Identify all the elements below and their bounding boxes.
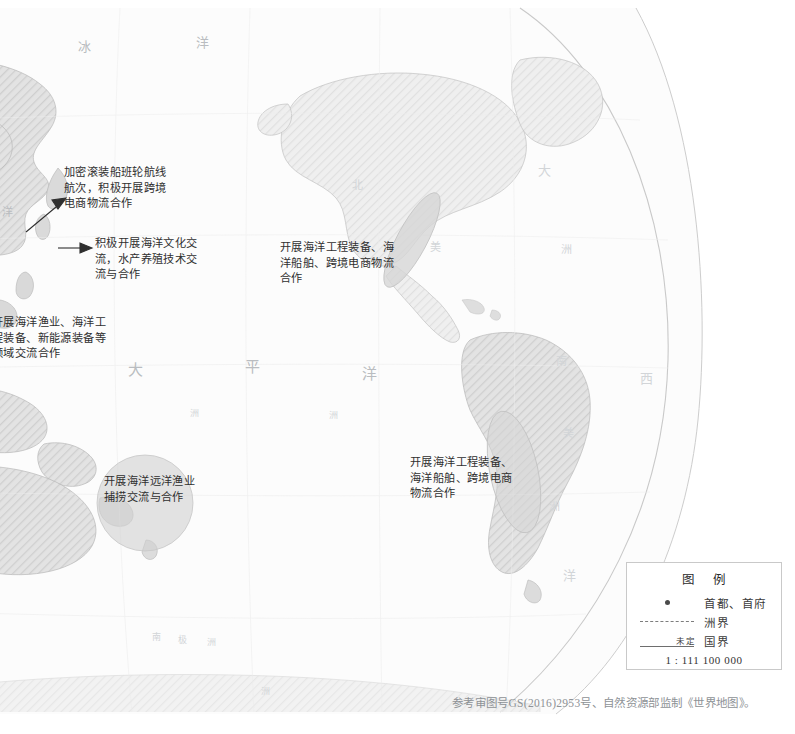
legend-title: 图 例 — [636, 569, 772, 588]
capital-dot-icon — [636, 593, 698, 612]
legend-row-national: 未定 国界 — [636, 631, 772, 650]
callout-marine-culture: 积极开展海洋文化交 流，水产养殖技术交 流与合作 — [95, 236, 245, 283]
legend-label-continental: 洲界 — [698, 614, 729, 630]
callout-fishery-equipment: 开展海洋渔业、海洋工 程装备、新能源装备等 领域交流合作 — [0, 315, 162, 362]
map-approval-note: 参考审图号GS(2016)2953号、自然资源部监制《世界地图》。 — [452, 694, 755, 710]
callout-mexico-engineering: 开展海洋工程装备、海 洋船舶、跨境电商物流 合作 — [280, 240, 442, 287]
map-legend: 图 例 首都、首府 洲界 未定 国界 1 : 111 100 000 — [626, 562, 782, 670]
callout-deepsea-fishing: 开展海洋远洋渔业 捕捞交流与合作 — [104, 474, 246, 505]
legend-row-capital: 首都、首府 — [636, 593, 772, 612]
callout-south-america-engineering: 开展海洋工程装备、 海洋船舶、跨境电商 物流合作 — [410, 455, 568, 502]
dashed-line-icon — [636, 612, 698, 631]
callout-roro-shipping: 加密滚装船班轮航线 航次，积极开展跨境 电商物流合作 — [64, 165, 214, 212]
legend-undetermined-note: 未定 — [675, 634, 696, 646]
solid-line-icon: 未定 — [636, 631, 698, 650]
world-map-figure: 冰 洋 大 平 洋 洋 北 大 美 洲 西 南 美 洲 洋 洲 洲 南 极 洲 … — [0, 0, 795, 734]
legend-label-national: 国界 — [698, 633, 729, 649]
legend-scale: 1 : 111 100 000 — [636, 654, 772, 666]
legend-row-continental: 洲界 — [636, 612, 772, 631]
legend-label-capital: 首都、首府 — [698, 595, 767, 611]
